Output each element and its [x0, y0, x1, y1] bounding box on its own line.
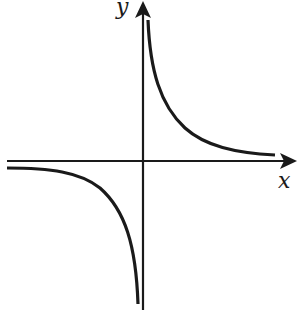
- x-axis-label: x: [278, 168, 291, 193]
- y-axis-label: y: [115, 0, 129, 19]
- x-axis: x: [7, 153, 297, 193]
- quadrant-iii-branch: [7, 168, 138, 304]
- quadrant-i-branch: [148, 20, 275, 155]
- hyperbola-graph: x y: [0, 0, 298, 310]
